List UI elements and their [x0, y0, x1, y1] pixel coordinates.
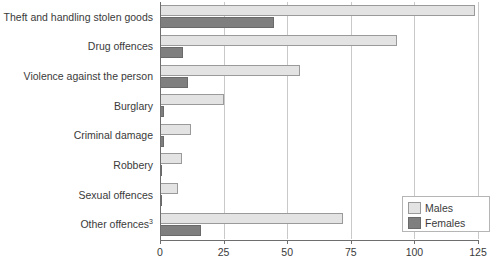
bar-females [160, 77, 188, 88]
bar-males [160, 213, 343, 224]
x-axis-tick-label: 0 [157, 246, 163, 258]
x-axis-tick-label: 100 [406, 246, 424, 258]
category-label: Drug offences [0, 40, 153, 52]
x-axis-tick [160, 240, 161, 244]
y-axis-line [160, 2, 161, 241]
x-axis-tick [478, 240, 479, 244]
x-axis-tick [414, 240, 415, 244]
x-axis-tick-label: 75 [345, 246, 357, 258]
bar-females [160, 17, 274, 28]
bar-males [160, 94, 224, 105]
bar-males [160, 65, 300, 76]
category-label: Criminal damage [0, 129, 153, 141]
bar-females [160, 225, 201, 236]
category-footnote-marker: 3 [149, 218, 153, 225]
x-axis-tick [224, 240, 225, 244]
x-axis-tick-label: 50 [281, 246, 293, 258]
x-axis-tick [351, 240, 352, 244]
category-label: Violence against the person [0, 70, 153, 82]
legend-label: Females [425, 216, 465, 230]
category-label: Theft and handling stolen goods [0, 11, 153, 23]
value-axis: 0255075100125 [0, 240, 495, 266]
category-label: Sexual offences [0, 189, 153, 201]
bar-males [160, 124, 191, 135]
category-label: Burglary [0, 100, 153, 112]
chart-legend: MalesFemales [402, 196, 490, 232]
legend-swatch [408, 202, 421, 214]
x-axis-tick-label: 25 [218, 246, 230, 258]
category-label: Robbery [0, 159, 153, 171]
bar-males [160, 35, 397, 46]
legend-label: Males [425, 201, 453, 215]
x-axis-tick [287, 240, 288, 244]
bar-males [160, 153, 182, 164]
bar-males [160, 183, 178, 194]
category-axis: Theft and handling stolen goodsDrug offe… [0, 0, 157, 241]
bar-females [160, 47, 183, 58]
x-axis-tick-label: 125 [469, 246, 487, 258]
bar-chart: Theft and handling stolen goodsDrug offe… [0, 0, 495, 266]
bar-males [160, 5, 475, 16]
legend-swatch [408, 217, 421, 229]
category-label: Other offences3 [0, 218, 153, 230]
